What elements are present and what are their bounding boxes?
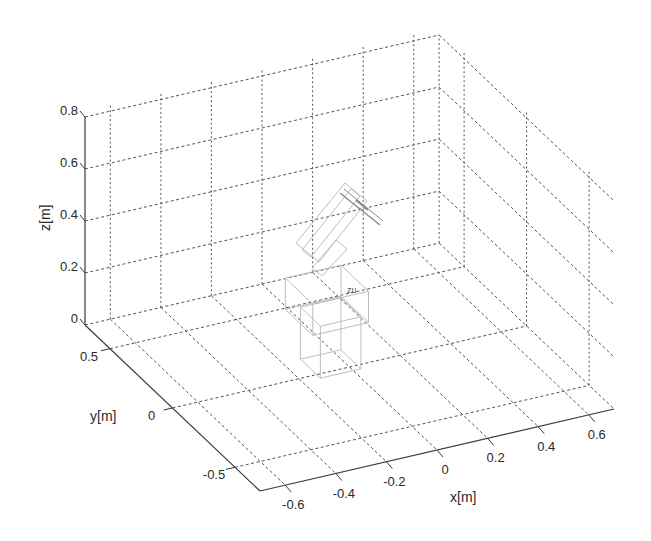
grid-lines bbox=[85, 33, 614, 485]
robot-upper-block bbox=[285, 278, 313, 304]
z-tick-label: 0.6 bbox=[60, 155, 78, 170]
x-tick-label: -0.2 bbox=[383, 474, 405, 489]
y-axis-label: y[m] bbox=[90, 408, 116, 424]
x-tick-mark bbox=[538, 427, 544, 434]
back-wall-horizontal bbox=[85, 35, 439, 117]
floor-grid-y bbox=[173, 326, 527, 408]
z-tick-label: 0 bbox=[71, 311, 78, 326]
z-axis-label: z[m] bbox=[37, 205, 53, 231]
3d-plot-figure: -0.6-0.4-0.200.20.40.60.50-0.500.20.40.6… bbox=[0, 0, 651, 541]
x-tick-label: -0.6 bbox=[282, 497, 304, 512]
x-tick-mark bbox=[285, 485, 291, 492]
robot-upper-block bbox=[285, 309, 313, 335]
z-tick-mark bbox=[80, 163, 85, 169]
x-tick-label: 0.4 bbox=[537, 439, 555, 454]
floor-grid-y bbox=[235, 385, 589, 467]
z-tick-label: 0.2 bbox=[60, 259, 78, 274]
robot-end-effector bbox=[340, 193, 380, 225]
z-tick-mark bbox=[80, 319, 85, 325]
robot-base bbox=[341, 350, 361, 369]
y-tick-label: 0.5 bbox=[80, 349, 98, 364]
x-tick-label: -0.4 bbox=[333, 486, 355, 501]
z-tick-label: 0.4 bbox=[60, 207, 78, 222]
back-wall-horizontal bbox=[85, 139, 439, 221]
right-wall-horizontal bbox=[439, 87, 614, 253]
y-tick-label: -0.5 bbox=[203, 467, 225, 482]
tick-labels: -0.6-0.4-0.200.20.40.60.50-0.500.20.40.6… bbox=[60, 103, 606, 512]
robot-base bbox=[341, 298, 361, 317]
floor-grid-y bbox=[110, 267, 464, 349]
x-tick-mark bbox=[336, 474, 342, 481]
right-wall-horizontal bbox=[439, 191, 614, 357]
z-tick-mark bbox=[80, 267, 85, 273]
robot-base bbox=[320, 369, 361, 378]
y-tick-mark bbox=[226, 467, 235, 469]
x-tick-label: 0.6 bbox=[588, 427, 606, 442]
y-tick-mark bbox=[101, 349, 110, 351]
y-tick-label: 0 bbox=[148, 408, 155, 423]
x-tick-label: 0.2 bbox=[487, 450, 505, 465]
annotation-zu: zu bbox=[347, 285, 357, 295]
x-tick-mark bbox=[437, 450, 443, 457]
robot-model bbox=[285, 183, 383, 378]
x-tick-mark bbox=[589, 415, 595, 422]
3d-axes: -0.6-0.4-0.200.20.40.60.50-0.500.20.40.6… bbox=[0, 0, 651, 541]
y-tick-mark bbox=[164, 408, 173, 410]
x-tick-label: 0 bbox=[441, 462, 448, 477]
robot-arm-link bbox=[296, 183, 367, 262]
robot-base bbox=[300, 359, 320, 378]
floor-grid-x bbox=[363, 261, 538, 427]
floor-grid-x bbox=[110, 319, 285, 485]
floor-grid-x bbox=[211, 296, 386, 462]
z-tick-label: 0.8 bbox=[60, 103, 78, 118]
x-tick-mark bbox=[386, 462, 392, 469]
x-tick-mark bbox=[488, 438, 494, 445]
z-tick-mark bbox=[80, 111, 85, 117]
z-tick-mark bbox=[80, 215, 85, 221]
x-axis-label: x[m] bbox=[450, 489, 476, 505]
